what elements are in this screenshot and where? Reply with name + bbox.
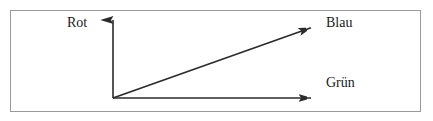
axis-label-rot: Rot [67, 16, 87, 30]
blau-axis-line [113, 28, 311, 98]
axis-label-blau: Blau [326, 16, 352, 30]
axis-label-gruen: Grün [326, 76, 355, 90]
axes-diagram [0, 0, 433, 121]
figure-root: Rot Blau Grün [0, 0, 433, 121]
